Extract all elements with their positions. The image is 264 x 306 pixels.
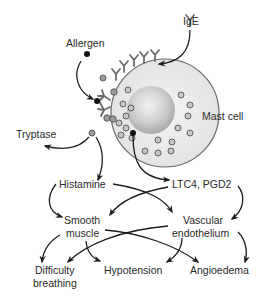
label-tryptase: Tryptase <box>16 128 57 140</box>
label-allergen: Allergen <box>66 37 105 49</box>
label-vascular-1: Vascular <box>183 214 224 226</box>
label-ige: IgE <box>183 15 199 27</box>
label-angioedema: Angioedema <box>190 264 249 276</box>
label-difficulty-2: breathing <box>33 277 77 289</box>
label-smooth-muscle-2: muscle <box>66 227 99 239</box>
label-mast-cell: Mast cell <box>202 110 243 122</box>
label-vascular-2: endothelium <box>172 227 229 239</box>
tryptase-granule <box>89 130 95 136</box>
mediator-dot <box>130 130 136 136</box>
bound-allergen <box>94 98 100 104</box>
allergen-particle <box>84 51 90 57</box>
label-ltc4-pgd2: LTC4, PGD2 <box>172 178 231 190</box>
label-smooth-muscle-1: Smooth <box>64 214 100 226</box>
released-granule <box>100 75 106 81</box>
nucleus <box>127 86 175 134</box>
label-difficulty-1: Difficulty <box>35 264 75 276</box>
label-hypotension: Hypotension <box>104 264 163 276</box>
label-histamine: Histamine <box>59 178 106 190</box>
mast-cell-diagram: Allergen IgE Mast cell Tryptase Histamin… <box>0 0 264 306</box>
